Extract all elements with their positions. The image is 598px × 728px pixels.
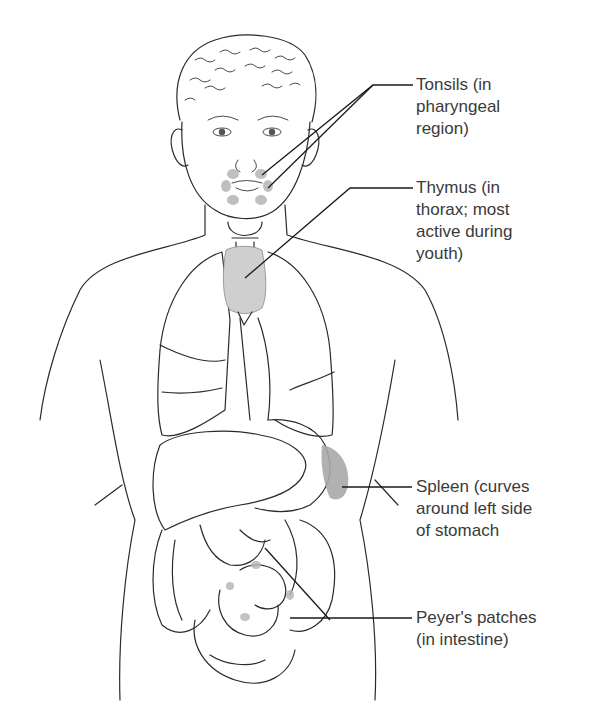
- peyers-patches-highlight: [226, 561, 294, 621]
- tonsils-highlight: [221, 169, 273, 205]
- label-tonsils: Tonsils (in pharyngeal region): [416, 74, 500, 140]
- label-thymus: Thymus (in thorax; most active during yo…: [416, 177, 512, 265]
- intestines: [153, 520, 335, 683]
- anatomy-diagram: Tonsils (in pharyngeal region) Thymus (i…: [0, 0, 598, 728]
- stomach: [255, 420, 330, 512]
- label-spleen: Spleen (curves around left side of stoma…: [416, 476, 532, 542]
- liver: [153, 431, 306, 530]
- spleen-highlight: [321, 445, 348, 499]
- label-peyers-patches: Peyer's patches (in intestine): [416, 607, 536, 651]
- head: [171, 35, 319, 219]
